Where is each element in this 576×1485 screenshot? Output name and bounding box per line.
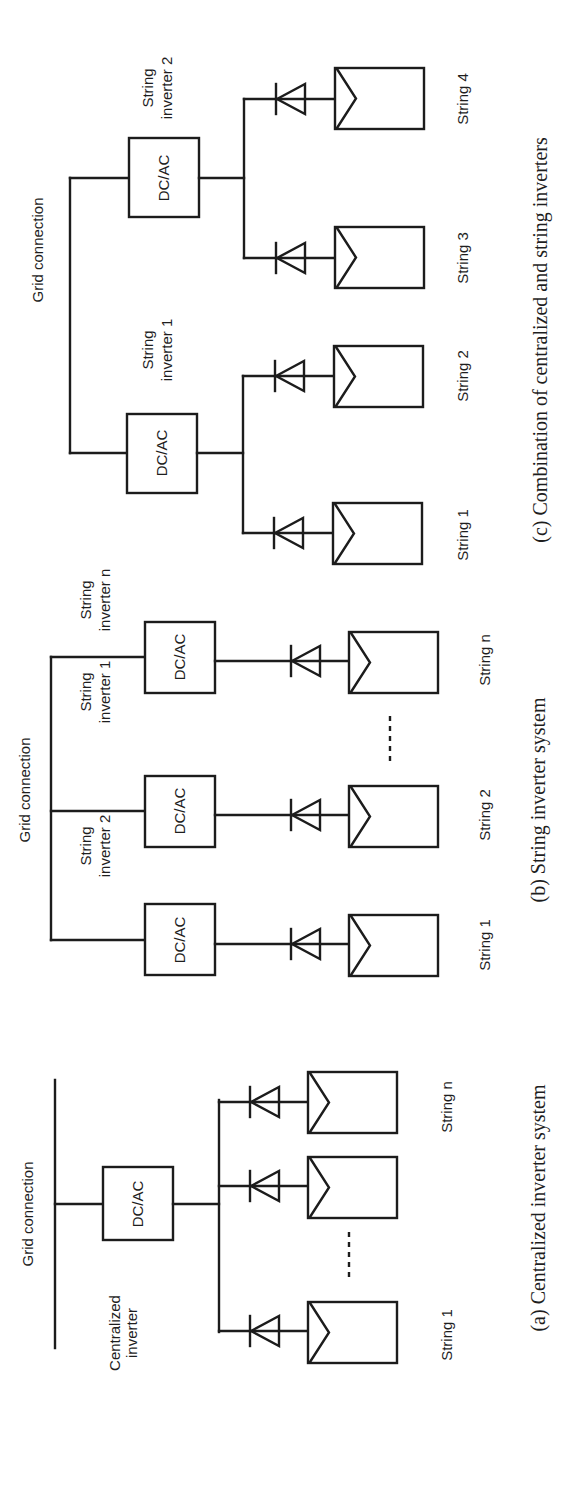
pv-string-panel — [335, 227, 424, 288]
string-1-label: String 1 — [438, 1309, 455, 1361]
pv-string-panel — [308, 1072, 397, 1133]
pv-string-panel — [349, 915, 438, 976]
string-4-label: String 4 — [454, 73, 471, 125]
string-inverter-label: inverter 1 — [96, 661, 113, 724]
string-inverter-label: inverter n — [96, 569, 113, 632]
caption-a: (a) Centralized inverter system — [527, 1084, 550, 1332]
string-1-label: String 1 — [476, 919, 493, 971]
pv-string-panel — [349, 632, 438, 693]
string-1-label: String 1 — [454, 509, 471, 561]
string-inverter-label: inverter 1 — [158, 319, 175, 382]
pv-string-panel — [308, 1157, 397, 1218]
pv-string-panel — [334, 346, 423, 407]
string-inverter-label: String — [139, 330, 156, 369]
pv-string-panel — [349, 786, 438, 847]
string-inverter-label: String — [77, 580, 94, 619]
grid-connection-label: Grid connection — [19, 1161, 36, 1266]
dcac-label: DC/AC — [171, 633, 188, 680]
pv-string-panel — [333, 503, 422, 564]
grid-connection-label: Grid connection — [29, 197, 46, 302]
string-3-label: String 3 — [454, 232, 471, 284]
string-n-label: String n — [476, 634, 493, 686]
dcac-label: DC/AC — [171, 916, 188, 963]
string-2-label: String 2 — [476, 789, 493, 841]
caption-b: (b) String inverter system — [527, 697, 550, 902]
pv-inverter-topologies-figure: Grid connection DC/AC Centralized invert… — [0, 0, 576, 1485]
dcac-label: DC/AC — [155, 154, 172, 201]
panel-c-combination: Grid connection DC/AC DC/AC String inver… — [29, 57, 552, 564]
string-inverter-label: inverter 2 — [96, 815, 113, 878]
dcac-label: DC/AC — [129, 1180, 146, 1227]
pv-string-panel — [308, 1302, 397, 1363]
string-2-label: String 2 — [454, 350, 471, 402]
centralized-inverter-label-2: inverter — [123, 1308, 140, 1358]
pv-string-panel — [335, 68, 424, 129]
string-inverter-label: String — [139, 68, 156, 107]
string-inverter-label: inverter 2 — [158, 57, 175, 120]
centralized-inverter-label: Centralized — [106, 1295, 123, 1371]
string-n-label: String n — [438, 1081, 455, 1133]
caption-c: (c) Combination of centralized and strin… — [529, 137, 552, 543]
grid-connection-label: Grid connection — [16, 737, 33, 842]
string-inverter-label: String — [77, 672, 94, 711]
panel-b-string-inverters: Grid connection DC/AC DC/AC DC/AC String… — [16, 569, 550, 976]
dcac-label: DC/AC — [153, 429, 170, 476]
string-inverter-label: String — [77, 826, 94, 865]
panel-a-centralized: Grid connection DC/AC Centralized invert… — [19, 1072, 550, 1371]
dcac-label: DC/AC — [171, 787, 188, 834]
